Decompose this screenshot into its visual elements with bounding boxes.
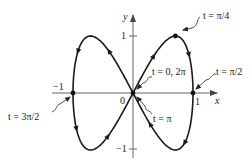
- annotation-t-pi-over-2: t = π/2: [216, 67, 242, 77]
- annotation-t-pi-over-4: t = π/4: [203, 11, 229, 21]
- point-origin: [131, 91, 136, 96]
- pointer-t-pi-over-4: [183, 17, 200, 30]
- origin-label: 0: [120, 96, 125, 106]
- point-t-pi-over-4: [173, 34, 178, 39]
- pointer-t-0-2pi: [137, 77, 152, 89]
- annotation-t-3pi-over-2: t = 3π/2: [8, 112, 39, 122]
- annotation-t-pi: t = π: [153, 114, 171, 124]
- point-t-3pi-over-2: [71, 91, 76, 96]
- y-axis-label: y: [123, 12, 127, 22]
- pointer-t-3pi-over-2: [52, 97, 70, 112]
- annotation-t-0-2pi: t = 0, 2π: [152, 67, 185, 77]
- y-tick-label-neg1: −1: [116, 144, 127, 154]
- x-tick-label-neg1: −1: [53, 82, 64, 92]
- pointer-t-pi-over-2: [196, 74, 216, 89]
- x-tick-label-1: 1: [195, 97, 200, 107]
- point-t-pi-over-2: [191, 91, 196, 96]
- y-tick-label-1: 1: [121, 31, 126, 41]
- parametric-curve-figure: y x 0 −1 1 1 −1 t = π/4 t = 0, 2π t = π/…: [0, 0, 252, 162]
- plot-canvas: [0, 0, 252, 162]
- x-axis-label: x: [215, 96, 219, 106]
